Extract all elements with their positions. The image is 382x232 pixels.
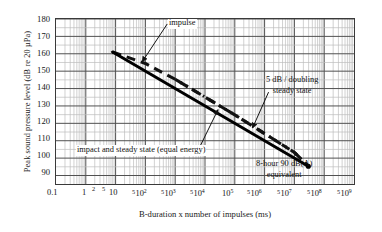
x-tick-label-0-1: 0.1 — [47, 188, 57, 197]
x-tick-label-1e3: 5103 — [161, 188, 176, 198]
x-tick-base-1e8: 10 — [310, 189, 318, 198]
plot-area: impulse 5 dB / doubling steady state imp… — [55, 18, 355, 185]
annotation-equal-energy: impact and steady state (equal energy) — [76, 145, 206, 156]
x-tick-exp-1e7: 7 — [289, 188, 292, 194]
x-tick-label-1e5: 105 — [222, 188, 233, 198]
x-tick-exp-1e9: 9 — [349, 188, 352, 194]
x-tick-label-10: 10 — [109, 188, 117, 197]
x-tick-label-2: 2 — [92, 185, 95, 192]
x-tick-exp-1e8: 8 — [319, 188, 322, 194]
y-tick-label-150: 150 — [26, 65, 50, 75]
annotation-eight-hour: 8-hour 90 dB(A) equivalent — [256, 159, 312, 180]
x-tick-label-1e7: 5107 — [277, 188, 292, 198]
x-tick-base-1e9: 10 — [340, 189, 348, 198]
y-tick-label-140: 140 — [26, 82, 50, 92]
x-tick-label-1e2: 5102 — [132, 188, 147, 198]
x-tick-base-1e3: 10 — [164, 189, 172, 198]
x-tick-label-5: 5 — [102, 185, 105, 192]
y-tick-label-100: 100 — [26, 150, 50, 160]
y-tick-label-120: 120 — [26, 116, 50, 126]
annotation-impulse: impulse — [168, 18, 197, 29]
x-tick-base-1e7: 10 — [280, 189, 288, 198]
x-axis-title: B-duration x number of impulses (ms) — [55, 209, 355, 219]
x-tick-base-1e4: 10 — [193, 189, 201, 198]
x-tick-label-1e8: 5108 — [307, 188, 322, 198]
x-tick-label-1: 1 — [82, 188, 86, 197]
chart-figure: Peak sound pressure level (dB re 20 µPa)… — [0, 0, 382, 232]
x-tick-exp-1e6: 6 — [259, 188, 262, 194]
x-tick-base-1e6: 10 — [250, 189, 258, 198]
x-tick-exp-1e4: 4 — [202, 188, 205, 194]
y-tick-label-160: 160 — [26, 48, 50, 58]
x-tick-exp-1e3: 3 — [173, 188, 176, 194]
x-tick-exp-1e5: 5 — [230, 188, 233, 194]
annotation-steady-state: 5 dB / doubling steady state — [266, 75, 318, 96]
y-tick-label-110: 110 — [26, 133, 50, 143]
annotation-eight-hour-line2: equivalent — [256, 170, 312, 181]
x-tick-base-1e2: 10 — [135, 189, 143, 198]
y-tick-label-180: 180 — [26, 14, 50, 24]
x-tick-label-1e9: 5109 — [337, 188, 352, 198]
x-tick-label-1e6: 5106 — [247, 188, 262, 198]
annotation-steady-state-line2: steady state — [266, 86, 318, 97]
y-tick-label-90: 90 — [26, 167, 50, 177]
annotation-eight-hour-line1: 8-hour 90 dB(A) — [256, 159, 312, 170]
x-tick-label-1e4: 5104 — [190, 188, 205, 198]
x-tick-exp-1e2: 2 — [144, 188, 147, 194]
annotation-steady-state-line1: 5 dB / doubling — [266, 75, 318, 86]
y-tick-label-130: 130 — [26, 99, 50, 109]
y-tick-label-170: 170 — [26, 31, 50, 41]
